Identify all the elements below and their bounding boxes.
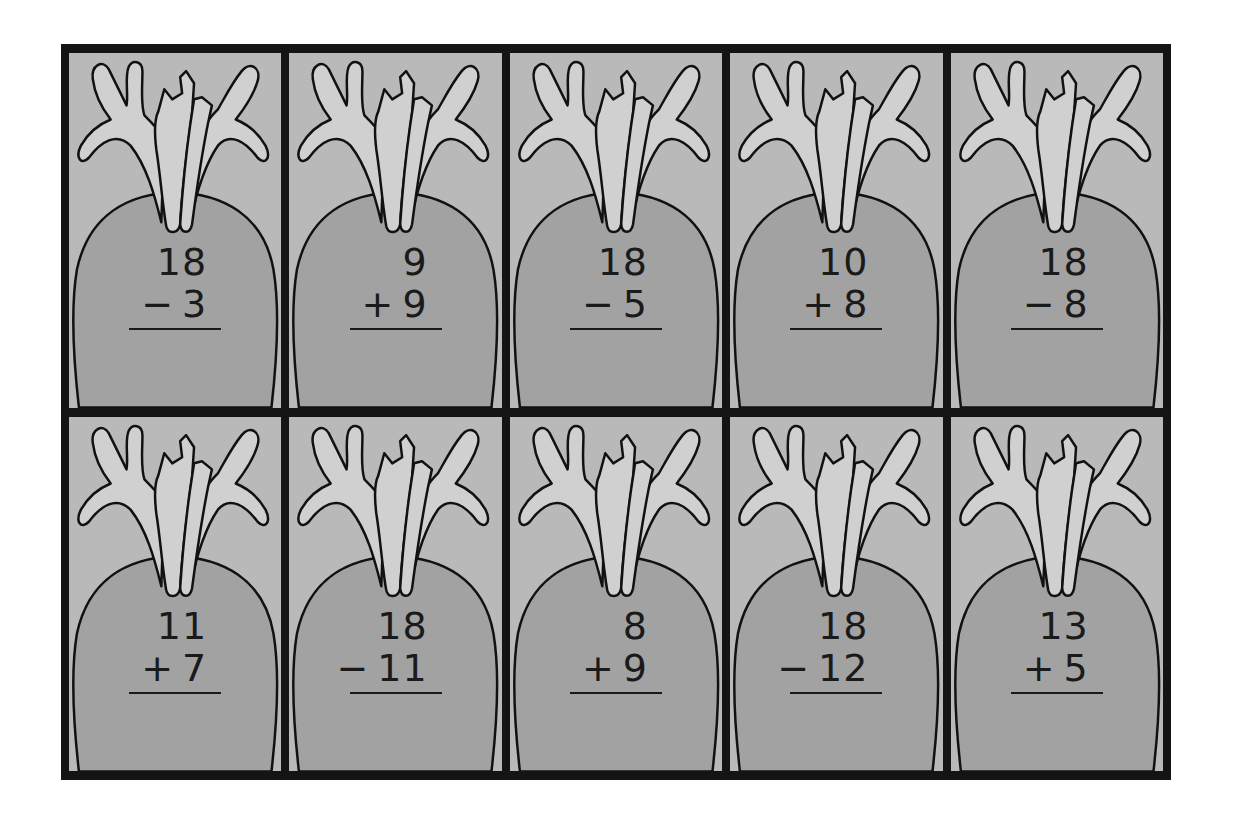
answer-line [570, 692, 662, 694]
math-problem: 18 −5 [510, 241, 722, 330]
top-number: 10 [818, 241, 882, 283]
flashcard[interactable]: 9 +9 [289, 53, 501, 408]
flashcard[interactable]: 18 −11 [289, 417, 501, 772]
carrot-icon [289, 53, 501, 408]
answer-line [350, 328, 442, 330]
top-number: 18 [1038, 241, 1102, 283]
operator: − [1023, 283, 1056, 325]
top-number: 9 [402, 241, 441, 283]
flashcard[interactable]: 18 −5 [510, 53, 722, 408]
flashcard-grid: 18 −3 9 +9 18 −5 [69, 53, 1163, 771]
bottom-number: 8 [1064, 283, 1089, 325]
worksheet-frame: 18 −3 9 +9 18 −5 [61, 44, 1171, 780]
top-number: 8 [623, 605, 662, 647]
operator: − [141, 283, 174, 325]
answer-line [129, 328, 221, 330]
carrot-icon [951, 417, 1163, 772]
answer-line [350, 692, 442, 694]
bottom-number: 11 [377, 647, 427, 689]
bottom-number: 8 [843, 283, 868, 325]
answer-line [790, 692, 882, 694]
carrot-icon [289, 417, 501, 772]
math-problem: 11 +7 [69, 605, 281, 694]
answer-line [1011, 692, 1103, 694]
carrot-icon [951, 53, 1163, 408]
flashcard[interactable]: 11 +7 [69, 417, 281, 772]
bottom-number: 9 [402, 283, 427, 325]
carrot-icon [69, 53, 281, 408]
math-problem: 18 −12 [730, 605, 942, 694]
flashcard[interactable]: 8 +9 [510, 417, 722, 772]
answer-line [1011, 328, 1103, 330]
operator: + [802, 283, 835, 325]
math-problem: 10 +8 [730, 241, 942, 330]
answer-line [129, 692, 221, 694]
top-number: 18 [818, 605, 882, 647]
carrot-icon [69, 417, 281, 772]
top-number: 18 [377, 605, 441, 647]
answer-line [790, 328, 882, 330]
math-problem: 18 −8 [951, 241, 1163, 330]
top-number: 18 [157, 241, 221, 283]
operator: + [362, 283, 395, 325]
operator: + [1023, 647, 1056, 689]
math-problem: 8 +9 [510, 605, 722, 694]
carrot-icon [510, 417, 722, 772]
bottom-number: 5 [1064, 647, 1089, 689]
bottom-number: 9 [623, 647, 648, 689]
operator: − [582, 283, 615, 325]
bottom-number: 5 [623, 283, 648, 325]
math-problem: 9 +9 [289, 241, 501, 330]
math-problem: 13 +5 [951, 605, 1163, 694]
bottom-number: 12 [818, 647, 868, 689]
flashcard[interactable]: 18 −12 [730, 417, 942, 772]
math-problem: 18 −11 [289, 605, 501, 694]
carrot-icon [730, 417, 942, 772]
operator: + [582, 647, 615, 689]
top-number: 18 [598, 241, 662, 283]
top-number: 13 [1038, 605, 1102, 647]
operator: + [141, 647, 174, 689]
flashcard[interactable]: 13 +5 [951, 417, 1163, 772]
math-problem: 18 −3 [69, 241, 281, 330]
carrot-icon [730, 53, 942, 408]
flashcard[interactable]: 10 +8 [730, 53, 942, 408]
bottom-number: 7 [182, 647, 207, 689]
answer-line [570, 328, 662, 330]
bottom-number: 3 [182, 283, 207, 325]
top-number: 11 [157, 605, 221, 647]
flashcard[interactable]: 18 −8 [951, 53, 1163, 408]
flashcard[interactable]: 18 −3 [69, 53, 281, 408]
carrot-icon [510, 53, 722, 408]
operator: − [777, 647, 810, 689]
operator: − [336, 647, 369, 689]
